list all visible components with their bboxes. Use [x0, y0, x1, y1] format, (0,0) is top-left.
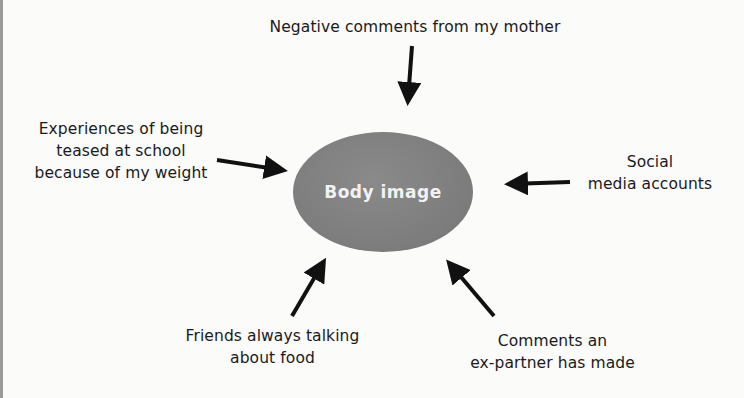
arrow-right-icon	[217, 160, 282, 170]
arrows-layer	[0, 0, 744, 398]
arrow-down-icon	[408, 46, 412, 100]
arrow-up-left-icon	[450, 264, 494, 316]
arrow-left-icon	[510, 182, 570, 184]
arrow-up-right-icon	[292, 263, 323, 316]
